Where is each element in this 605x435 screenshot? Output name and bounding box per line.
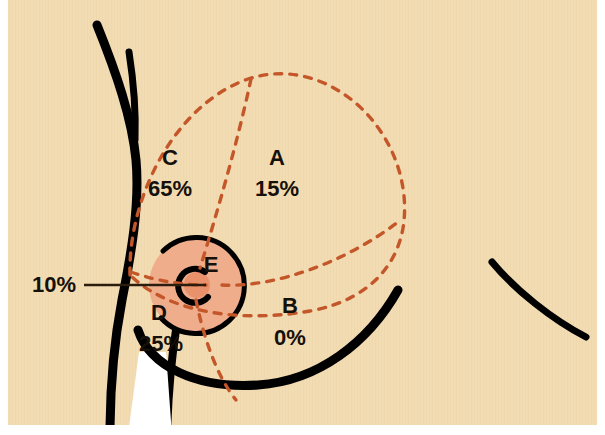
breast-quadrant-figure: C 65% A 15% D 25% B 0% E 10% [0,0,605,435]
region-a-letter: A [269,145,285,170]
region-b-letter: B [282,293,298,318]
center-region-letter: E [204,252,219,277]
region-d-letter: D [151,300,167,325]
region-d-percent: 25% [139,331,183,356]
diagram-canvas: C 65% A 15% D 25% B 0% E 10% [0,0,605,435]
region-b-percent: 0% [274,325,306,350]
region-c-letter: C [162,145,178,170]
region-c-percent: 65% [148,176,192,201]
illustration-plate [8,0,597,425]
callout-percent: 10% [32,272,76,297]
region-a-percent: 15% [255,176,299,201]
